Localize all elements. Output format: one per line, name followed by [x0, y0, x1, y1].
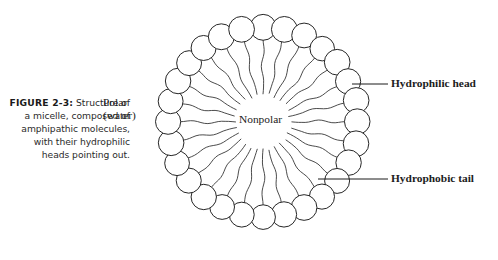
hydrophobic-tail	[261, 39, 264, 93]
hydrophobic-tail	[286, 140, 328, 173]
hydrophobic-tail	[292, 120, 345, 123]
hydrophobic-tail	[227, 148, 251, 196]
figure-panel: FIGURE 2-3: Structure of a micelle, comp…	[0, 0, 498, 260]
hydrophobic-tail	[211, 57, 245, 99]
hydrophobic-tail	[274, 147, 299, 197]
hydrophilic-head	[229, 16, 255, 42]
hydrophobic-tail	[182, 104, 234, 116]
hydrophobic-tail	[189, 86, 236, 109]
hydrophobic-tail	[183, 128, 237, 141]
hydrophobic-tail	[292, 128, 345, 141]
hydrophobic-tail	[244, 41, 257, 94]
hydrophobic-tails-group	[180, 39, 345, 205]
hydrophobic-tail	[274, 46, 299, 97]
hydrophobic-tail	[188, 133, 238, 158]
hydrophobic-tail	[269, 150, 281, 202]
hydrophobic-tail	[180, 121, 235, 124]
hydrophobic-tail	[262, 149, 265, 205]
hydrophilic-heads-group	[156, 14, 371, 229]
hydrophilic-head	[251, 205, 276, 230]
hydrophobic-tail	[227, 48, 252, 98]
hydrophobic-tail	[287, 133, 337, 158]
hydrophobic-tail	[269, 41, 281, 93]
hydrophobic-tail	[289, 87, 337, 111]
micelle-diagram	[0, 0, 498, 260]
